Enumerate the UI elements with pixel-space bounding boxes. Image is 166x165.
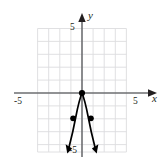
x-tick-label-5: 5	[133, 96, 138, 106]
y-tick-label-5: 5	[70, 22, 75, 32]
point-left	[70, 115, 76, 121]
y-axis-label: y	[87, 9, 93, 21]
point-right	[88, 115, 94, 121]
point-vertex	[79, 90, 85, 96]
coordinate-plane: x y -5 5 5 -5	[0, 0, 166, 165]
x-axis-label: x	[151, 92, 157, 104]
graph-figure: x y -5 5 5 -5	[0, 0, 166, 165]
y-axis	[78, 13, 85, 157]
x-tick-label-negative-5: -5	[14, 96, 22, 106]
